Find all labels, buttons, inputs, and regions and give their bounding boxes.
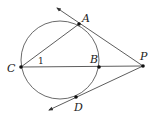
point-c	[19, 65, 23, 69]
label-d: D	[73, 101, 83, 114]
tangent-line-pd	[49, 66, 143, 110]
point-p	[141, 64, 145, 68]
point-a	[77, 22, 81, 26]
circle	[21, 21, 99, 99]
secant-line-cp	[21, 66, 143, 67]
chord-ca	[21, 24, 79, 67]
point-d	[74, 95, 78, 99]
label-a: A	[81, 12, 90, 25]
angle-label-1: 1	[38, 56, 44, 66]
label-c: C	[7, 62, 16, 75]
label-b: B	[89, 53, 98, 66]
label-p: P	[139, 50, 148, 63]
geometry-diagram: A B C D P 1	[0, 0, 153, 120]
tangent-line-pa	[57, 8, 143, 66]
